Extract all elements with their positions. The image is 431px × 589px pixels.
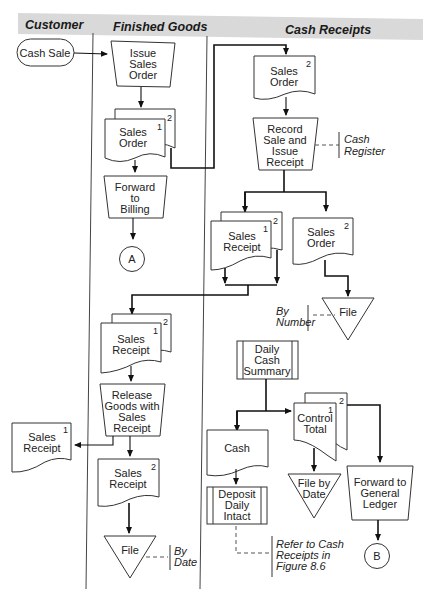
file-by-number-storage: File bbox=[322, 298, 374, 340]
control-total-document: 2 1 Control Total bbox=[294, 393, 347, 461]
svg-text:1: 1 bbox=[157, 122, 162, 132]
svg-text:Register: Register bbox=[344, 145, 386, 157]
svg-text:2: 2 bbox=[306, 59, 311, 69]
svg-text:Receipt: Receipt bbox=[223, 241, 260, 253]
svg-text:Intact: Intact bbox=[224, 510, 251, 522]
svg-text:Billing: Billing bbox=[120, 203, 149, 215]
svg-text:Summary: Summary bbox=[243, 365, 291, 377]
issue-sales-order-process: Issue Sales Order bbox=[111, 41, 175, 87]
svg-text:Order: Order bbox=[129, 69, 157, 81]
svg-text:Order: Order bbox=[270, 76, 298, 88]
svg-text:Total: Total bbox=[303, 423, 326, 435]
svg-text:1: 1 bbox=[263, 224, 268, 234]
cash-sale-terminal: Cash Sale bbox=[17, 39, 74, 66]
svg-text:Receipt: Receipt bbox=[266, 156, 303, 168]
svg-text:2: 2 bbox=[151, 462, 156, 472]
connector-b: B bbox=[365, 544, 390, 569]
svg-text:Order: Order bbox=[119, 137, 147, 149]
svg-text:Date: Date bbox=[174, 556, 197, 568]
cr-sales-receipt-document: 2 1 Sales Receipt bbox=[211, 212, 282, 270]
svg-text:2: 2 bbox=[273, 216, 278, 226]
deposit-daily-intact-process: Deposit Daily Intact bbox=[207, 487, 267, 524]
svg-text:1: 1 bbox=[153, 326, 158, 336]
svg-text:File: File bbox=[339, 306, 357, 318]
svg-text:Figure 8.6: Figure 8.6 bbox=[276, 560, 326, 572]
svg-text:Date: Date bbox=[302, 488, 325, 500]
svg-text:Receipt: Receipt bbox=[113, 422, 150, 434]
svg-text:File: File bbox=[121, 544, 139, 556]
svg-text:1: 1 bbox=[63, 425, 68, 435]
svg-text:Cash Sale: Cash Sale bbox=[20, 47, 71, 59]
record-sale-process: Record Sale and Issue Receipt bbox=[253, 118, 318, 170]
by-date-annotation: By Date bbox=[174, 545, 197, 568]
lane-divider-1 bbox=[86, 33, 93, 589]
svg-text:Ledger: Ledger bbox=[363, 498, 398, 510]
svg-text:Order: Order bbox=[307, 237, 335, 249]
svg-text:2: 2 bbox=[167, 113, 172, 123]
svg-text:A: A bbox=[128, 253, 136, 265]
lane-divider-2 bbox=[200, 36, 207, 589]
cash-document: Cash bbox=[207, 430, 268, 476]
column-header-cash-receipts: Cash Receipts bbox=[285, 23, 371, 37]
by-number-annotation: By Number bbox=[276, 305, 316, 328]
fg-sales-receipt-document: 2 1 Sales Receipt bbox=[101, 314, 171, 373]
customer-sales-receipt-document: 1 Sales Receipt bbox=[12, 423, 71, 472]
svg-text:Receipt: Receipt bbox=[23, 442, 60, 454]
svg-text:2: 2 bbox=[163, 317, 168, 327]
svg-text:B: B bbox=[373, 550, 380, 562]
refer-note-annotation: Refer to Cash Receipts in Figure 8.6 bbox=[276, 538, 344, 572]
column-header-customer: Customer bbox=[25, 18, 84, 32]
fg-sales-receipt-copy-document: 2 Sales Receipt bbox=[98, 459, 159, 506]
cr-sales-order-copy-document: 2 Sales Order bbox=[293, 218, 353, 264]
svg-text:Cash: Cash bbox=[224, 442, 250, 454]
svg-text:Number: Number bbox=[276, 316, 316, 328]
connector-a: A bbox=[120, 247, 145, 272]
forward-to-billing-process: Forward to Billing bbox=[104, 176, 167, 218]
svg-text:2: 2 bbox=[339, 396, 344, 406]
svg-text:2: 2 bbox=[344, 221, 349, 231]
forward-to-general-ledger-process: Forward to General Ledger bbox=[347, 466, 413, 520]
cr-sales-order-document: 2 Sales Order bbox=[254, 56, 315, 99]
file-by-date-cr-storage: File by Date bbox=[288, 474, 341, 518]
cash-register-annotation: Cash Register bbox=[344, 133, 386, 157]
svg-text:Cash: Cash bbox=[344, 133, 370, 145]
daily-cash-summary-process: Daily Cash Summary bbox=[237, 341, 298, 379]
column-header-finished-goods: Finished Goods bbox=[113, 20, 207, 34]
release-goods-process: Release Goods with Sales Receipt bbox=[100, 384, 165, 436]
svg-text:Receipt: Receipt bbox=[112, 344, 149, 356]
fg-sales-order-document: 2 1 Sales Order bbox=[105, 109, 175, 162]
flowchart: Customer Finished Goods Cash Receipts Ca… bbox=[0, 0, 431, 589]
svg-text:Receipt: Receipt bbox=[109, 478, 146, 490]
